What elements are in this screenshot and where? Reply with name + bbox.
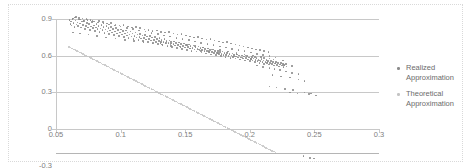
data-point — [207, 43, 209, 45]
data-point — [115, 24, 117, 26]
data-point — [250, 58, 252, 60]
data-point — [289, 92, 291, 94]
data-point — [285, 63, 287, 65]
legend-entry-theoretical[interactable]: Theoretical Approximation — [397, 89, 475, 108]
data-point — [120, 26, 122, 28]
data-point — [132, 33, 134, 35]
data-point — [181, 48, 183, 50]
data-point — [261, 58, 263, 60]
data-point — [93, 21, 95, 23]
data-point — [298, 73, 300, 75]
data-point — [244, 60, 246, 62]
data-point — [235, 58, 237, 60]
data-point — [136, 37, 138, 39]
data-point — [83, 20, 85, 22]
data-point — [148, 29, 150, 31]
data-point — [176, 37, 178, 39]
data-point — [308, 93, 310, 95]
data-point — [151, 37, 153, 39]
data-point — [108, 27, 110, 29]
data-point — [176, 47, 178, 49]
data-point — [99, 31, 101, 33]
legend-label-realized: Realized Approximation — [406, 63, 475, 82]
data-point — [181, 33, 183, 35]
data-point — [98, 20, 100, 22]
data-point — [276, 87, 278, 89]
data-point — [210, 38, 212, 40]
data-point — [254, 61, 256, 63]
y-axis-tick-label: 0.9 — [42, 15, 52, 23]
data-point — [273, 65, 275, 67]
data-point — [259, 62, 261, 64]
x-axis-tick-label: 0.15 — [178, 131, 193, 139]
data-point — [269, 58, 271, 60]
data-point — [210, 54, 212, 56]
data-point — [147, 41, 149, 43]
y-axis-tick-label: 0.6 — [42, 52, 52, 60]
data-point — [217, 53, 219, 55]
data-point — [160, 31, 162, 33]
data-point — [282, 60, 284, 62]
data-point — [247, 47, 249, 49]
chart-legend: Realized Approximation Theoretical Appro… — [397, 63, 475, 115]
data-point — [170, 43, 172, 45]
y-axis-line — [56, 19, 57, 129]
y-axis-tick-label: 0.3 — [42, 88, 52, 96]
data-point — [285, 71, 287, 73]
data-point — [201, 38, 203, 40]
data-point — [75, 16, 77, 18]
data-point — [135, 32, 137, 34]
data-point — [256, 53, 258, 55]
data-point — [169, 36, 171, 38]
data-point — [118, 35, 120, 37]
data-point — [145, 39, 147, 41]
data-point — [75, 20, 77, 22]
data-point — [194, 45, 196, 47]
data-point — [189, 48, 191, 50]
data-point — [268, 64, 270, 66]
data-point — [126, 35, 128, 37]
data-point — [274, 68, 276, 70]
data-point — [310, 93, 312, 95]
x-axis-tick-label: 0.3 — [374, 131, 384, 139]
data-point — [125, 30, 127, 32]
chart-frame[interactable]: 0.90.60.30-0.3 0.050.10.150.20.250.3 Rea… — [8, 4, 463, 162]
gridline-y — [56, 19, 379, 20]
data-point — [157, 33, 159, 35]
data-point — [273, 59, 275, 61]
data-point — [280, 76, 282, 78]
data-point — [127, 26, 129, 28]
data-point — [110, 22, 112, 24]
data-point — [251, 48, 253, 50]
data-point — [226, 41, 228, 43]
y-tick-mark — [52, 19, 56, 20]
data-point — [72, 18, 74, 20]
data-point — [173, 33, 175, 35]
data-point — [168, 42, 170, 44]
data-point — [139, 33, 141, 35]
data-point — [71, 25, 73, 27]
data-point — [304, 80, 306, 82]
data-point — [197, 36, 199, 38]
data-point — [260, 56, 262, 58]
data-point — [186, 49, 188, 51]
data-point — [123, 24, 125, 26]
data-point — [105, 37, 107, 39]
data-point — [116, 33, 118, 35]
data-point — [206, 39, 208, 41]
data-point — [275, 57, 277, 59]
data-point — [111, 32, 113, 34]
plot-area[interactable] — [56, 19, 379, 129]
data-point — [112, 28, 114, 30]
data-point — [284, 88, 286, 90]
data-point — [117, 29, 119, 31]
data-point — [262, 54, 264, 56]
data-point — [263, 63, 265, 65]
legend-entry-realized[interactable]: Realized Approximation — [397, 63, 475, 82]
data-point — [170, 45, 172, 47]
data-point — [143, 41, 145, 43]
data-point — [140, 38, 142, 40]
data-point — [89, 29, 91, 31]
data-point — [126, 27, 128, 29]
data-point — [157, 43, 159, 45]
